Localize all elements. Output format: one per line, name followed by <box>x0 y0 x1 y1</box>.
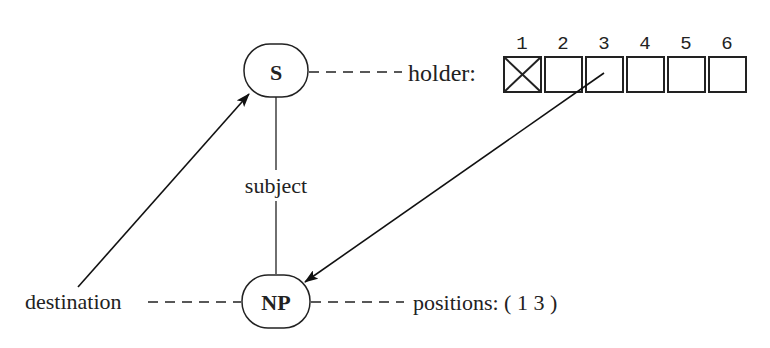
destination-to-s-arrow <box>78 94 249 287</box>
slot-index-6: 6 <box>721 33 732 55</box>
slot-index-1: 1 <box>516 33 527 55</box>
slot-index-4: 4 <box>639 33 650 55</box>
slot-index-5: 5 <box>680 33 691 55</box>
subject-edge-label: subject <box>245 173 307 198</box>
holder-slot-6[interactable] <box>709 57 746 92</box>
holder-slot-indices: 1 2 3 4 5 6 <box>516 33 732 55</box>
holder-slot-2[interactable] <box>545 57 582 92</box>
node-s[interactable]: S <box>244 44 308 97</box>
slot3-to-np-arrow <box>305 73 604 282</box>
node-np[interactable]: NP <box>242 275 310 328</box>
node-np-label: NP <box>261 290 290 315</box>
holder-slot-4[interactable] <box>627 57 664 92</box>
diagram-canvas: S holder: 1 2 3 4 5 6 subject NP destina… <box>0 0 770 348</box>
slot-index-2: 2 <box>557 33 568 55</box>
positions-label: positions: ( 1 3 ) <box>413 290 557 315</box>
slot-index-3: 3 <box>598 33 609 55</box>
holder-slot-5[interactable] <box>668 57 705 92</box>
holder-label: holder: <box>408 60 476 86</box>
destination-label: destination <box>25 289 122 314</box>
holder-slot-3[interactable] <box>586 57 623 92</box>
node-s-label: S <box>270 60 282 85</box>
holder-slots <box>504 57 746 92</box>
